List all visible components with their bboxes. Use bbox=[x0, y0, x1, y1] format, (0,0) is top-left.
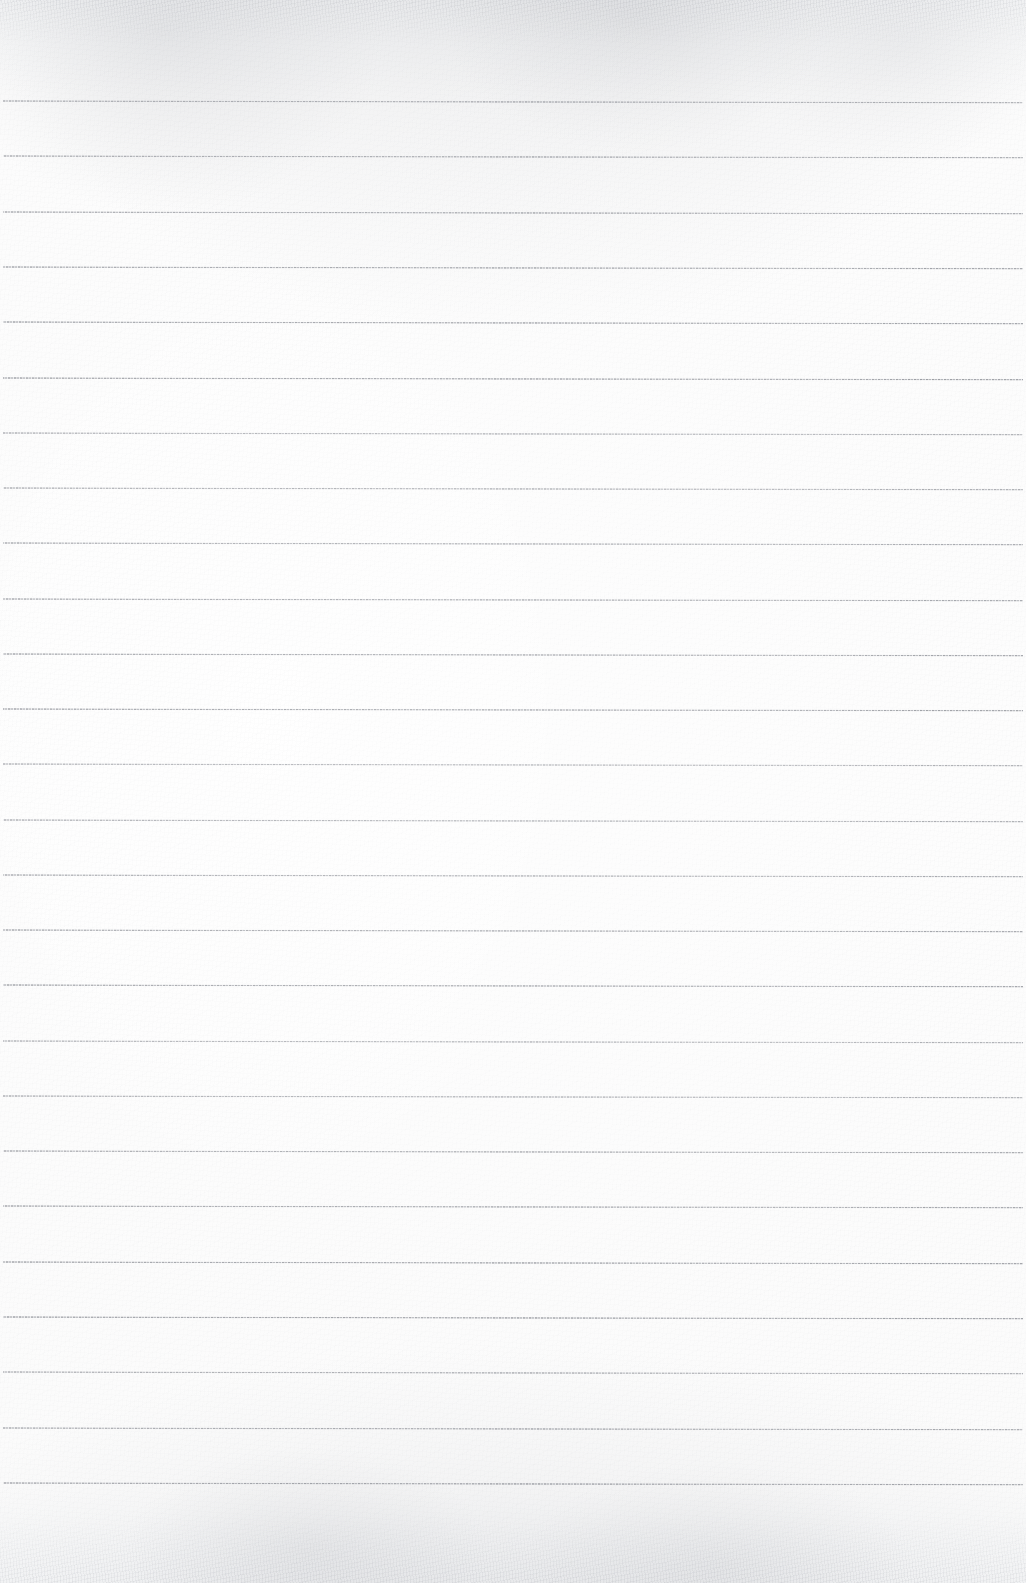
rule-line bbox=[3, 929, 1023, 933]
rule-line bbox=[3, 1482, 1023, 1486]
rule-line bbox=[3, 377, 1023, 381]
rule-line bbox=[3, 1371, 1023, 1375]
rule-line bbox=[3, 1095, 1023, 1099]
rule-line bbox=[3, 542, 1023, 546]
rule-line bbox=[3, 1205, 1023, 1209]
rule-line bbox=[3, 100, 1023, 104]
rule-line bbox=[3, 1316, 1023, 1320]
ruled-lines-layer bbox=[0, 0, 1026, 1583]
rule-line bbox=[3, 819, 1023, 823]
rule-line bbox=[3, 1150, 1023, 1154]
rule-line bbox=[3, 266, 1023, 270]
rule-line bbox=[3, 1040, 1023, 1044]
rule-line bbox=[3, 211, 1023, 215]
rule-line bbox=[3, 321, 1023, 325]
rule-line bbox=[3, 487, 1023, 491]
rule-line bbox=[3, 653, 1023, 657]
rule-line bbox=[3, 763, 1023, 767]
rule-line bbox=[3, 432, 1023, 436]
rule-line bbox=[3, 984, 1023, 988]
scanned-page bbox=[0, 0, 1026, 1583]
rule-line bbox=[3, 1427, 1023, 1431]
rule-line bbox=[3, 1261, 1023, 1265]
rule-line bbox=[3, 708, 1023, 712]
rule-line bbox=[3, 155, 1023, 159]
rule-line bbox=[3, 598, 1023, 602]
rule-line bbox=[3, 874, 1023, 878]
